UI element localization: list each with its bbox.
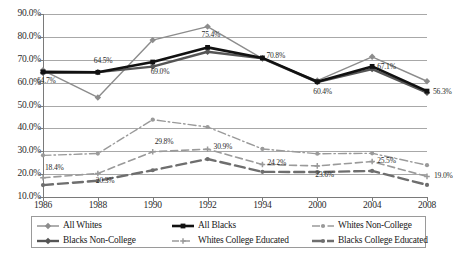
y-axis-tick xyxy=(39,174,43,175)
data-label: 64.5% xyxy=(94,57,113,65)
data-point-marker xyxy=(259,55,265,61)
data-label: 19.0% xyxy=(434,172,453,180)
data-label: 20.3% xyxy=(96,177,115,185)
series-line xyxy=(43,47,427,91)
y-axis-tick-label: 20.0% xyxy=(1,169,41,179)
legend-key-icon xyxy=(171,236,195,246)
x-axis-tick-label: 1992 xyxy=(182,200,234,210)
x-axis-tick-label: 2000 xyxy=(291,200,343,210)
legend-key-icon xyxy=(36,221,60,231)
x-axis-line xyxy=(43,197,428,198)
y-axis-tick xyxy=(39,14,43,15)
legend-key-icon xyxy=(171,221,195,231)
series-all-blacks xyxy=(41,45,430,93)
data-point-marker xyxy=(151,168,155,172)
data-point-marker xyxy=(45,237,51,243)
data-point-marker xyxy=(425,163,429,167)
data-point-marker xyxy=(321,238,325,242)
data-point-marker xyxy=(45,222,51,228)
data-point-marker xyxy=(180,238,186,244)
y-axis-tick-label: 90.0% xyxy=(1,9,41,19)
gridline xyxy=(43,14,427,15)
y-axis-tick xyxy=(39,37,43,38)
x-axis-tick-label: 2008 xyxy=(401,200,453,210)
data-point-marker xyxy=(425,183,429,187)
legend-label: Blacks Non-College xyxy=(63,235,136,246)
data-label: 60.4% xyxy=(313,88,332,96)
data-point-marker xyxy=(181,223,186,228)
x-axis-tick-label: 1986 xyxy=(17,200,69,210)
data-label: 30.9% xyxy=(214,143,233,151)
x-axis-tick-label: 2004 xyxy=(346,200,398,210)
series-whites-non-college xyxy=(41,118,429,168)
data-label: 18.4% xyxy=(45,164,64,172)
y-axis-tick-label: 60.0% xyxy=(1,78,41,88)
data-point-marker xyxy=(315,152,319,156)
data-label: 70.8% xyxy=(266,52,285,60)
gridline xyxy=(43,151,427,152)
legend-item-all-whites[interactable]: All Whites xyxy=(36,218,171,233)
data-point-marker xyxy=(260,162,266,168)
gridline xyxy=(43,37,427,38)
legend-item-blacks-college-educated[interactable]: Blacks College Educated xyxy=(311,233,429,248)
y-axis-tick-label: 80.0% xyxy=(1,32,41,42)
series-line xyxy=(43,120,427,166)
legend-label: Blacks College Educated xyxy=(338,235,428,246)
y-axis-tick xyxy=(39,128,43,129)
y-axis-tick xyxy=(39,151,43,152)
y-axis-tick xyxy=(39,106,43,107)
data-point-marker xyxy=(314,163,320,169)
data-point-marker xyxy=(425,89,430,94)
gridline xyxy=(43,83,427,84)
data-point-marker xyxy=(204,49,210,55)
data-label: 64.7% xyxy=(37,77,56,85)
data-label: 29.8% xyxy=(155,138,174,146)
data-point-marker xyxy=(205,157,209,161)
data-point-marker xyxy=(95,70,100,75)
data-point-marker xyxy=(370,64,375,69)
data-label: 25.5% xyxy=(377,157,396,165)
data-label: 24.2% xyxy=(267,159,286,167)
legend-label: Whites College Educated xyxy=(198,235,289,246)
data-label: 75.4% xyxy=(202,31,221,39)
legend-key-icon xyxy=(36,236,60,246)
legend-item-blacks-non-college[interactable]: Blacks Non-College xyxy=(36,233,171,248)
legend-item-all-blacks[interactable]: All Blacks xyxy=(171,218,311,233)
data-label: 69.0% xyxy=(151,68,170,76)
data-label: 23.6% xyxy=(315,171,334,179)
gridline xyxy=(43,128,427,129)
data-point-marker xyxy=(205,45,210,50)
data-point-marker xyxy=(424,89,430,95)
data-point-marker xyxy=(321,223,325,227)
legend-key-icon xyxy=(311,236,335,246)
y-axis-tick-label: 70.0% xyxy=(1,55,41,65)
data-label: 67.1% xyxy=(377,63,396,71)
data-point-marker xyxy=(370,169,374,173)
data-point-marker xyxy=(95,69,101,75)
legend-item-whites-non-college[interactable]: Whites Non-College xyxy=(311,218,429,233)
legend-label: All Blacks xyxy=(198,220,236,231)
y-axis-line xyxy=(43,14,44,198)
y-axis-tick-label: 40.0% xyxy=(1,123,41,133)
data-point-marker xyxy=(151,118,155,122)
y-axis-labels: 90.0%80.0%70.0%60.0%50.0%40.0%30.0%20.0%… xyxy=(0,0,41,198)
y-axis-tick-label: 30.0% xyxy=(1,146,41,156)
data-label: 56.3% xyxy=(433,88,452,96)
x-axis-tick-label: 1988 xyxy=(72,200,124,210)
y-axis-tick xyxy=(39,60,43,61)
legend-item-whites-college-educated[interactable]: Whites College Educated xyxy=(171,233,311,248)
y-axis-tick-label: 50.0% xyxy=(1,101,41,111)
legend-label: All Whites xyxy=(63,220,102,231)
x-axis-tick-label: 1990 xyxy=(127,200,179,210)
data-point-marker xyxy=(95,94,101,100)
legend-label: Whites Non-College xyxy=(338,220,412,231)
data-point-marker xyxy=(204,23,210,29)
data-point-marker xyxy=(369,66,375,72)
data-point-marker xyxy=(369,159,375,165)
chart-legend: All WhitesAll BlacksWhites Non-CollegeBl… xyxy=(31,216,426,248)
x-axis-tick-label: 1994 xyxy=(236,200,288,210)
legend-key-icon xyxy=(311,221,335,231)
gridline xyxy=(43,106,427,107)
gridline xyxy=(43,174,427,175)
